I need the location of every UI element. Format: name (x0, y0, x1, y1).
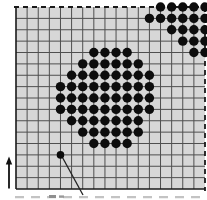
central-island-dot (122, 105, 131, 114)
central-island-dot (78, 116, 87, 125)
central-island-dot (100, 59, 109, 68)
central-island-dot (67, 105, 76, 114)
central-island-dot (122, 93, 131, 102)
central-island-dot (100, 71, 109, 80)
central-island-dot (56, 105, 65, 114)
corner-island-dot (167, 2, 176, 11)
central-island-dot (100, 116, 109, 125)
caption-fragment-mark (59, 195, 64, 197)
central-island-dot (134, 82, 143, 91)
corner-island-dot (167, 14, 176, 23)
central-island-dot (122, 139, 131, 148)
central-island-dot (145, 93, 154, 102)
central-island-dot (134, 127, 143, 136)
central-island-dot (111, 127, 120, 136)
central-island-dot (100, 82, 109, 91)
central-island-dot (122, 82, 131, 91)
central-island-dot (145, 71, 154, 80)
central-island-dot (122, 116, 131, 125)
central-island-dot (111, 59, 120, 68)
central-island-dot (111, 139, 120, 148)
central-island-dot (122, 48, 131, 57)
central-island-dot (111, 48, 120, 57)
central-island-dot (111, 82, 120, 91)
central-island-dot (100, 139, 109, 148)
corner-island-dot (189, 2, 198, 11)
central-island-dot (134, 116, 143, 125)
monomer-dot (57, 151, 65, 159)
central-island-dot (78, 59, 87, 68)
central-island-dot (100, 127, 109, 136)
lattice-figure (0, 0, 207, 200)
corner-island-dot (156, 2, 165, 11)
central-island-dot (56, 82, 65, 91)
central-island-dot (145, 105, 154, 114)
central-island-dot (122, 59, 131, 68)
central-island-dot (134, 59, 143, 68)
central-island-dot (89, 71, 98, 80)
central-island-dot (134, 71, 143, 80)
corner-island-dot (178, 36, 187, 45)
central-island-dot (78, 71, 87, 80)
central-island-dot (89, 48, 98, 57)
central-island-dot (89, 127, 98, 136)
central-island-dot (67, 71, 76, 80)
central-island-dot (100, 48, 109, 57)
up-arrow-head-icon (6, 157, 12, 165)
central-island-dot (67, 82, 76, 91)
corner-island-dot (189, 25, 198, 34)
central-island-dot (111, 116, 120, 125)
central-island-dot (89, 82, 98, 91)
central-island-dot (67, 93, 76, 102)
central-island-dot (89, 116, 98, 125)
central-island-dot (134, 105, 143, 114)
central-island-dot (89, 105, 98, 114)
central-island-dot (111, 93, 120, 102)
central-island-dot (122, 127, 131, 136)
corner-island-dot (189, 14, 198, 23)
corner-island-dot (167, 25, 176, 34)
central-island-dot (145, 82, 154, 91)
corner-island-dot (178, 25, 187, 34)
central-island-dot (89, 139, 98, 148)
central-island-dot (78, 105, 87, 114)
central-island-dot (78, 127, 87, 136)
central-island-dot (78, 93, 87, 102)
corner-island-dot (178, 14, 187, 23)
lattice-canvas (0, 0, 207, 200)
corner-island-dot (189, 48, 198, 57)
central-island-dot (134, 93, 143, 102)
corner-island-dot (145, 14, 154, 23)
corner-island-dot (178, 2, 187, 11)
central-island-dot (78, 82, 87, 91)
central-island-dot (122, 71, 131, 80)
central-island-dot (67, 116, 76, 125)
corner-island-dot (189, 36, 198, 45)
central-island-dot (89, 59, 98, 68)
central-island-dot (111, 105, 120, 114)
central-island-dot (111, 71, 120, 80)
central-island-dot (89, 93, 98, 102)
central-island-dot (100, 93, 109, 102)
corner-island-dot (156, 14, 165, 23)
central-island-dot (100, 105, 109, 114)
central-island-dot (56, 93, 65, 102)
caption-fragment-mark (49, 195, 56, 198)
